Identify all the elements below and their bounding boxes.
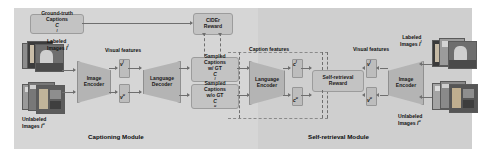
- retrieval-unlabeled-images-label: Unlabeled Images Iu: [398, 113, 422, 126]
- sampled-captions-without-gt-box: Sampled Captions w/o GT Cu: [191, 84, 239, 109]
- labeled-images-label: Labeled Images Il: [47, 38, 68, 51]
- visual-feature-unlabeled-symbol: vu: [120, 93, 125, 100]
- caption-features-label: Caption features: [249, 46, 289, 52]
- unlabeled-to-encoder-arrow: [73, 90, 76, 94]
- cider-line2: Reward: [204, 24, 222, 30]
- rimages-to-encoder-line-bottom: [422, 97, 432, 98]
- langenc-to-capfeatu-arrow: [288, 93, 291, 97]
- language-decoder-line2: Decoder: [152, 82, 172, 88]
- retrieval-visual-feature-labeled-symbol: vl: [367, 60, 371, 67]
- reward-feedback-dashed-up-left: [322, 52, 323, 70]
- rimages-to-encoder-arrow-top: [419, 62, 422, 66]
- cider-feedback-arrow-left: [202, 33, 206, 36]
- encoder-to-featl-arrow: [115, 66, 118, 70]
- self-retrieval-module-panel: [258, 8, 472, 149]
- imgenc-to-visfeatl-line: [380, 68, 388, 69]
- unlabeled-images-label: Unlabeled Images Iu: [22, 116, 46, 129]
- labeled-to-encoder-arrow: [73, 68, 76, 72]
- sampled-nogt-line3: w/o GT Cu: [207, 93, 224, 112]
- retrieval-labeled-thumb-front: [448, 41, 477, 69]
- caption-features-dashed-boundary-top: [228, 52, 328, 53]
- caption-feature-labeled-symbol: cl: [293, 60, 297, 67]
- gt-captions-line2: Captions Cl: [46, 17, 68, 36]
- language-encoder-line2: Encoder: [257, 83, 277, 89]
- retrieval-unlabeled-images-thumbnail-stack: [432, 80, 478, 114]
- decoder-to-sampledl-arrow: [187, 66, 190, 70]
- caption-feature-unlabeled-symbol: cu: [293, 96, 298, 103]
- sampled-captions-with-gt-box: Sampled Captions w/ GT Cl: [191, 57, 239, 82]
- captioning-visual-features-label: Visual features: [105, 47, 141, 53]
- retrieval-labeled-images-thumbnail-stack: [432, 36, 478, 70]
- sr-reward-line2: Reward: [329, 81, 347, 87]
- langenc-to-capfeatl-arrow: [288, 66, 291, 70]
- self-retrieval-module-caption: Self-retrieval Module: [308, 133, 369, 140]
- retrieval-labeled-images-label: Labeled Images Il: [400, 34, 421, 47]
- visual-feature-labeled-symbol: vl: [120, 60, 124, 67]
- retrieval-visual-features-label: Visual features: [353, 46, 389, 52]
- decoder-to-sampledu-arrow: [187, 93, 190, 97]
- encoder-to-featu-arrow: [115, 90, 118, 94]
- caption-features-dashed-left-edge: [239, 52, 240, 118]
- reward-feedback-dashed-down-left: [322, 90, 323, 118]
- visfeatl-to-reward-arrow: [362, 66, 365, 70]
- capfeatu-to-reward-arrow: [309, 93, 312, 97]
- captioning-image-encoder-line2: Encoder: [84, 82, 104, 88]
- imgenc-to-visfeatl-arrow: [376, 66, 379, 70]
- cider-reward-box: CIDEr Reward: [193, 13, 233, 35]
- featu-to-decoder-arrow: [139, 90, 142, 94]
- visfeatu-to-reward-arrow: [362, 93, 365, 97]
- retrieval-unlabeled-thumb-front: [449, 84, 478, 113]
- cider-feedback-arrow-right: [218, 33, 222, 36]
- retrieval-image-encoder-line2: Encoder: [396, 83, 416, 89]
- capfeatl-to-reward-arrow: [309, 66, 312, 70]
- self-retrieval-reward-box: Self-retrieval Reward: [312, 70, 364, 92]
- caption-features-dashed-boundary-bottom: [228, 118, 328, 119]
- unlabeled-image-thumb-front: [36, 85, 65, 114]
- imgenc-to-visfeatu-arrow: [376, 93, 379, 97]
- rimages-to-encoder-line-top: [422, 64, 432, 65]
- captioning-module-caption: Captioning Module: [88, 133, 144, 140]
- figure-canvas: Ground-truth Captions Cl CIDEr Reward: [0, 0, 486, 157]
- retrieval-visual-feature-unlabeled-symbol: vu: [367, 96, 372, 103]
- gt-to-cider-line: [82, 23, 192, 24]
- unlabeled-images-thumbnail-stack: [22, 82, 66, 116]
- ground-truth-captions-box: Ground-truth Captions Cl: [30, 14, 84, 34]
- imgenc-to-visfeatu-line: [380, 95, 388, 96]
- featl-to-decoder-arrow: [139, 66, 142, 70]
- rimages-to-encoder-arrow-bottom: [419, 95, 422, 99]
